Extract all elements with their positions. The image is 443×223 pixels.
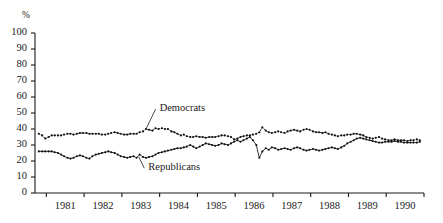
data-point bbox=[129, 133, 131, 135]
data-point bbox=[305, 150, 307, 152]
data-point bbox=[117, 132, 119, 134]
data-point bbox=[287, 148, 289, 150]
data-point bbox=[265, 147, 267, 149]
data-point bbox=[346, 142, 348, 144]
data-point bbox=[258, 131, 260, 133]
y-axis-tick-label: 30 bbox=[1, 139, 27, 149]
data-point bbox=[139, 131, 141, 133]
data-point bbox=[148, 156, 150, 158]
data-point bbox=[224, 143, 226, 145]
data-point bbox=[400, 141, 402, 143]
data-point bbox=[384, 141, 386, 143]
data-point bbox=[157, 128, 159, 130]
data-point bbox=[365, 138, 367, 140]
data-point bbox=[274, 147, 276, 149]
data-point bbox=[375, 137, 377, 139]
data-point bbox=[268, 131, 270, 133]
data-point bbox=[252, 134, 254, 136]
data-point bbox=[321, 149, 323, 151]
data-point bbox=[208, 136, 210, 138]
data-point bbox=[211, 136, 213, 138]
data-point bbox=[331, 146, 333, 148]
data-point bbox=[63, 155, 65, 157]
data-point bbox=[176, 133, 178, 135]
data-point bbox=[48, 136, 50, 138]
data-point bbox=[268, 149, 270, 151]
data-point bbox=[246, 134, 248, 136]
data-point bbox=[154, 127, 156, 129]
data-point bbox=[372, 138, 374, 140]
data-point bbox=[186, 146, 188, 148]
data-point bbox=[290, 130, 292, 132]
data-point bbox=[91, 155, 93, 157]
data-point bbox=[79, 154, 81, 156]
data-point bbox=[195, 135, 197, 137]
data-point bbox=[167, 128, 169, 130]
data-point bbox=[375, 141, 377, 143]
data-point bbox=[44, 150, 46, 152]
data-point bbox=[69, 158, 71, 160]
series-label-republicans: Republicans bbox=[148, 161, 200, 172]
data-point bbox=[85, 132, 87, 134]
data-point bbox=[387, 141, 389, 143]
data-point bbox=[104, 134, 106, 136]
data-point bbox=[211, 144, 213, 146]
data-point bbox=[353, 139, 355, 141]
data-point bbox=[110, 132, 112, 134]
data-point bbox=[123, 134, 125, 136]
data-point bbox=[406, 142, 408, 144]
data-point bbox=[315, 149, 317, 151]
data-point bbox=[205, 142, 207, 144]
data-point bbox=[327, 147, 329, 149]
data-point bbox=[252, 139, 254, 141]
y-axis-tick-label: 80 bbox=[1, 59, 27, 69]
data-point bbox=[403, 142, 405, 144]
data-point bbox=[284, 132, 286, 134]
data-point bbox=[362, 134, 364, 136]
data-point bbox=[157, 152, 159, 154]
data-point bbox=[334, 134, 336, 136]
data-point bbox=[82, 155, 84, 157]
data-point bbox=[224, 134, 226, 136]
data-point bbox=[199, 146, 201, 148]
x-axis-tick-label: 1983 bbox=[121, 200, 161, 211]
y-axis-tick-label: 50 bbox=[1, 107, 27, 117]
data-point bbox=[142, 130, 144, 132]
data-point bbox=[230, 142, 232, 144]
data-point bbox=[38, 133, 40, 135]
data-point bbox=[145, 157, 147, 159]
data-point bbox=[293, 129, 295, 131]
data-point bbox=[66, 157, 68, 159]
data-point bbox=[110, 151, 112, 153]
data-point bbox=[271, 146, 273, 148]
x-axis-tick-label: 1990 bbox=[385, 200, 425, 211]
data-point bbox=[221, 142, 223, 144]
data-point bbox=[41, 150, 43, 152]
data-point bbox=[133, 133, 135, 135]
data-point bbox=[180, 147, 182, 149]
data-point bbox=[76, 155, 78, 157]
data-point bbox=[142, 156, 144, 158]
data-point bbox=[265, 130, 267, 132]
data-point bbox=[309, 149, 311, 151]
data-point bbox=[180, 134, 182, 136]
data-point bbox=[208, 143, 210, 145]
y-axis-tick-label: 10 bbox=[1, 171, 27, 181]
data-point bbox=[390, 141, 392, 143]
data-point bbox=[419, 141, 421, 143]
data-point bbox=[242, 135, 244, 137]
data-point bbox=[369, 139, 371, 141]
data-point bbox=[202, 136, 204, 138]
data-point bbox=[312, 130, 314, 132]
data-point bbox=[101, 134, 103, 136]
data-point bbox=[255, 133, 257, 135]
data-point bbox=[54, 151, 56, 153]
data-point bbox=[60, 154, 62, 156]
x-axis-tick-label: 1985 bbox=[196, 200, 236, 211]
data-point bbox=[183, 134, 185, 136]
data-point bbox=[104, 151, 106, 153]
data-point bbox=[287, 130, 289, 132]
data-point bbox=[164, 150, 166, 152]
data-point bbox=[230, 136, 232, 138]
data-point bbox=[189, 144, 191, 146]
